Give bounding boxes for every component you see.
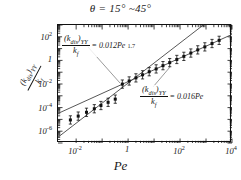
figure: θ = 15° ~45° (kdis)YY kf = 0.012Pe1.7 (k… [0,0,241,180]
x-tick-label: 10-2 [68,144,82,156]
annotation-2-equation: = 0.016Pe [170,92,204,101]
x-axis-title: Pe [0,158,241,174]
y-axis-fraction: (kdis)YY kf [17,60,51,95]
y-axis-denominator: kf [32,74,46,88]
x-tick-label: 102 [173,144,185,156]
annotation-1-exponent: 1.7 [127,42,135,49]
annotation-1-equation: = 0.012Pe [92,41,126,50]
figure-title: θ = 15° ~45° [0,2,241,14]
x-tick-label: 1 [125,144,129,154]
x-tick-label: 104 [225,144,237,156]
annotation-linear-fit: (kdis)YY kf = 0.016Pe [140,85,203,108]
annotation-2-fraction: (kdis)YY kf [140,85,168,108]
annotation-2-denominator: kf [149,97,159,108]
